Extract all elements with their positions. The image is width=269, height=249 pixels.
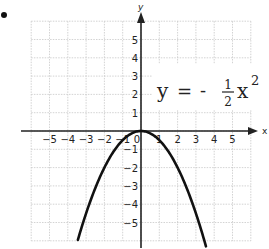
svg-text:-: -	[200, 80, 206, 101]
svg-text:x: x	[262, 126, 268, 136]
y-tick-label: 1	[132, 108, 138, 119]
svg-text:2: 2	[251, 73, 259, 88]
x-tick-label: −4	[60, 134, 75, 145]
parabola-curve	[78, 131, 206, 246]
x-tick-label: 3	[193, 134, 199, 145]
y-tick-label: 5	[132, 35, 138, 46]
svg-text:x: x	[237, 79, 249, 103]
x-tick-label: 5	[229, 134, 235, 145]
y-tick-label: 3	[132, 71, 138, 82]
svg-text:y: y	[137, 2, 144, 12]
x-tick-label: 4	[211, 134, 217, 145]
axes: xy	[21, 2, 268, 248]
y-tick-label: 4	[132, 53, 138, 64]
svg-text:1: 1	[224, 78, 232, 92]
svg-text:y: y	[156, 79, 169, 103]
parabola-graph: xy −5−4−3−2−112345054321−1−2−3−4−5 y=-12…	[0, 0, 269, 249]
svg-text:2: 2	[224, 95, 232, 109]
x-tick-label: −2	[97, 134, 112, 145]
x-tick-label: 2	[174, 134, 180, 145]
equation-label: y=-12x2	[152, 64, 268, 110]
y-tick-label: 2	[132, 89, 138, 100]
x-tick-label: −3	[79, 134, 94, 145]
svg-text:=: =	[177, 81, 192, 102]
y-tick-label: −2	[123, 163, 138, 174]
x-tick-label: −5	[42, 134, 57, 145]
y-tick-label: −4	[123, 199, 138, 210]
y-tick-label: −5	[123, 218, 138, 229]
y-tick-label: −3	[123, 181, 138, 192]
y-tick-label: −1	[123, 144, 138, 155]
